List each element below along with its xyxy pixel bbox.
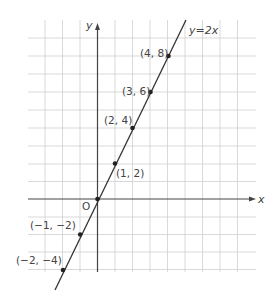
coordinate-plane: y x O y=2x (4, 8) (3, 6) (2, 4) (1, 2) (… <box>0 0 276 306</box>
origin-label: O <box>82 200 90 212</box>
label-point-3: (3, 6) <box>122 85 150 97</box>
x-axis-label: x <box>257 193 265 206</box>
label-point-4: (4, 8) <box>140 47 168 59</box>
label-point-m1: (−1, −2) <box>30 219 76 231</box>
y-axis-label: y <box>85 19 93 32</box>
point-1 <box>113 161 118 166</box>
point-m2 <box>61 268 66 273</box>
line-y-2x <box>55 20 186 290</box>
label-point-2: (2, 4) <box>104 114 132 126</box>
y-axis-arrow-icon <box>95 23 100 30</box>
line-label: y=2x <box>188 24 219 37</box>
point-2 <box>130 126 135 131</box>
label-point-m2: (−2, −4) <box>16 254 62 266</box>
label-point-1: (1, 2) <box>116 167 144 179</box>
point-0 <box>95 197 100 202</box>
point-m1 <box>78 232 83 237</box>
x-axis-arrow-icon <box>249 197 256 202</box>
